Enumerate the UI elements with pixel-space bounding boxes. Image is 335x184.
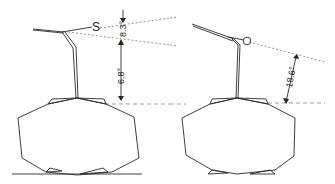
left-figure: S 8.3° 6.8°	[12, 10, 170, 175]
left-sight-line	[62, 27, 92, 32]
right-angle-label: 18.6°	[284, 65, 298, 88]
upper-angle-label: 8.3°	[118, 20, 128, 37]
right-body	[182, 98, 295, 174]
right-marker-o	[243, 37, 251, 45]
right-figure: O 18.6°	[170, 17, 325, 174]
left-upper-reference-line	[100, 18, 170, 28]
left-stem	[62, 32, 76, 98]
diagram-canvas: S 8.3° 6.8° O 18.6°	[0, 0, 335, 184]
left-marker-s: S	[92, 20, 100, 34]
right-sight-reference-line	[249, 42, 325, 62]
right-stem	[232, 39, 238, 98]
right-top-bar	[192, 24, 234, 39]
left-foot-left	[46, 168, 62, 172]
lower-angle-label: 6.8°	[116, 67, 126, 84]
left-body	[18, 98, 139, 175]
